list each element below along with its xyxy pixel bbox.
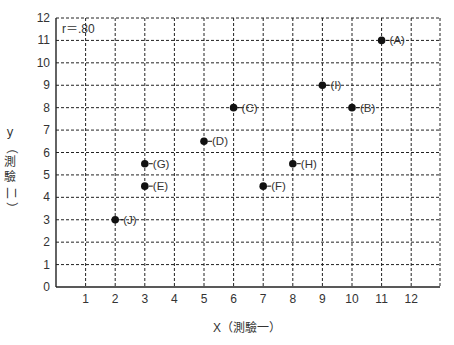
y-tick-label: 2	[43, 235, 50, 249]
x-tick-label: 12	[405, 292, 419, 306]
point-marker	[348, 104, 356, 112]
y-tick-label: 5	[43, 168, 50, 182]
point-label: (I)	[330, 79, 341, 91]
point-label: (D)	[212, 135, 228, 147]
point-marker	[141, 182, 149, 190]
point-label: (E)	[153, 180, 169, 192]
y-tick-label: 1	[43, 258, 50, 272]
x-tick-label: 3	[141, 292, 148, 306]
x-tick-label: 4	[171, 292, 178, 306]
y-tick-label: 12	[37, 11, 51, 25]
point-label: (C)	[242, 102, 258, 114]
correlation-annotation: r＝.80	[62, 22, 95, 36]
x-tick-label: 11	[375, 292, 388, 306]
point-marker	[200, 137, 208, 145]
x-tick-label: 9	[319, 292, 326, 306]
point-label: (G)	[153, 158, 170, 170]
point-label: (H)	[301, 158, 317, 170]
y-tick-label: 4	[43, 190, 50, 204]
point-marker	[230, 104, 238, 112]
y-axis-char-1: 測	[2, 155, 18, 170]
x-tick-labels: 123456789101112	[82, 292, 418, 306]
y-tick-label: 3	[43, 213, 50, 227]
y-axis-title: y （ 測 驗 二 ）	[2, 125, 18, 215]
point-marker	[111, 216, 119, 224]
y-tick-labels: 0123456789101112	[37, 11, 51, 294]
point-marker	[319, 81, 327, 89]
point-label: (J)	[123, 214, 137, 226]
point-label: (B)	[360, 102, 376, 114]
y-tick-label: 10	[37, 56, 51, 70]
x-axis-title: X（測驗一）	[0, 318, 454, 335]
y-axis-letter: y	[2, 125, 18, 140]
x-tick-label: 8	[289, 292, 296, 306]
point-label: (A)	[390, 34, 406, 46]
y-tick-label: 6	[43, 146, 50, 160]
y-tick-label: 0	[43, 280, 50, 294]
y-tick-label: 9	[43, 78, 50, 92]
point-marker	[378, 37, 386, 45]
y-axis-paren-close: ）	[3, 200, 18, 216]
x-tick-label: 7	[260, 292, 267, 306]
y-tick-label: 8	[43, 101, 50, 115]
point-label: (F)	[271, 180, 286, 192]
x-tick-label: 10	[345, 292, 359, 306]
point-marker	[259, 182, 267, 190]
point-marker	[289, 160, 297, 168]
point-marker	[141, 160, 149, 168]
grid-lines	[56, 18, 440, 287]
scatter-chart: 0123456789101112 123456789101112 (A)(B)(…	[0, 0, 454, 345]
y-axis-char-2: 驗	[2, 170, 18, 185]
x-tick-label: 6	[230, 292, 237, 306]
y-tick-label: 11	[38, 33, 51, 47]
x-tick-label: 1	[82, 292, 89, 306]
y-axis-char-3: 二	[3, 185, 18, 201]
y-axis-paren-open: （	[3, 140, 18, 156]
y-tick-label: 7	[43, 123, 50, 137]
x-tick-label: 2	[112, 292, 119, 306]
x-tick-label: 5	[201, 292, 208, 306]
